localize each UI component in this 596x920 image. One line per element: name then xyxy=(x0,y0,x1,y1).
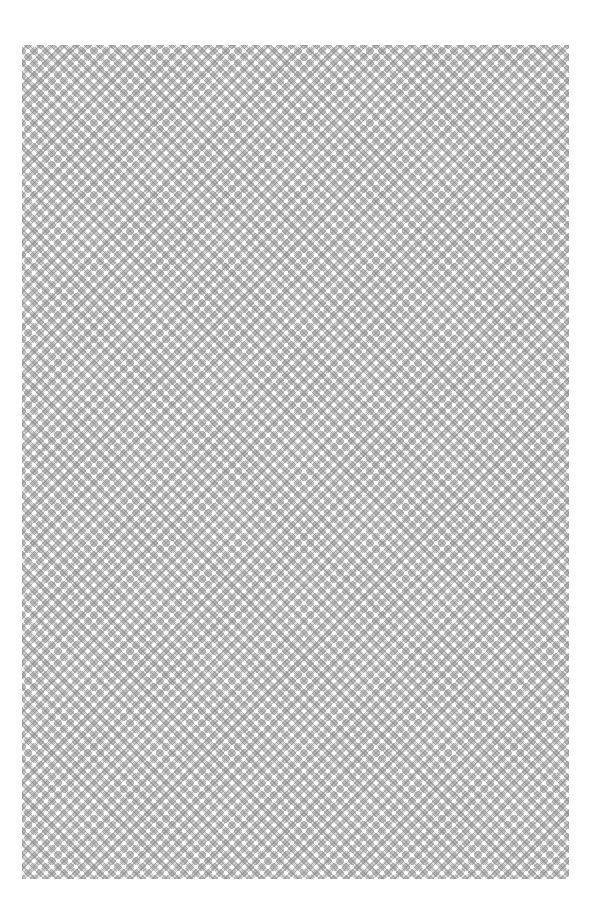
page xyxy=(0,0,596,920)
patterned-sheet xyxy=(22,45,569,879)
